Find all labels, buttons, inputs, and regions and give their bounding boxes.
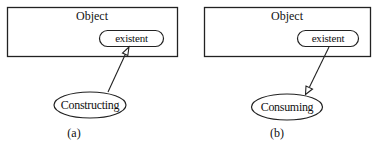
object-title-b: Object — [271, 9, 304, 23]
arrowhead-open-icon-b — [306, 86, 313, 95]
consumption-link-b — [310, 47, 330, 87]
process-label-a: Constructing — [61, 98, 120, 112]
caption-b: (b) — [270, 126, 284, 140]
caption-a: (a) — [67, 126, 80, 140]
arrowhead-open-icon-a — [123, 47, 130, 56]
object-title-a: Object — [76, 9, 109, 23]
result-link-a — [108, 54, 126, 92]
panel-a: Object existent Constructing (a) — [8, 8, 178, 141]
state-label-a: existent — [115, 32, 148, 44]
process-label-b: Consuming — [261, 100, 314, 114]
diagram-canvas: Object existent Constructing (a) Object … — [0, 0, 378, 146]
panel-b: Object existent Consuming (b) — [205, 8, 371, 141]
state-label-b: existent — [312, 32, 345, 44]
